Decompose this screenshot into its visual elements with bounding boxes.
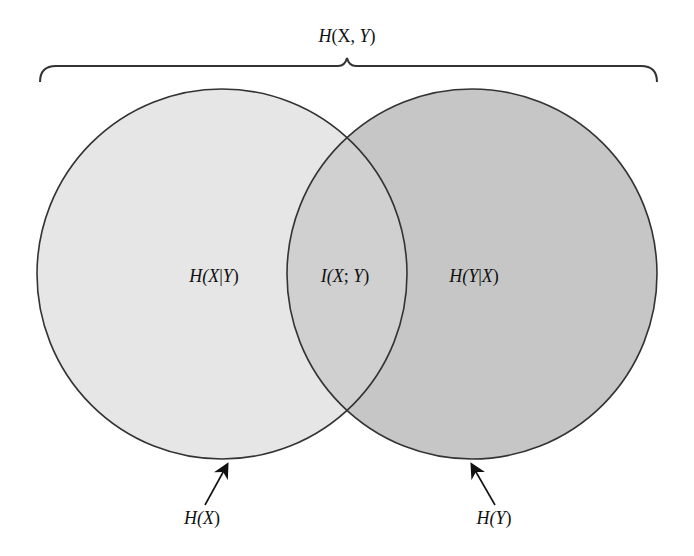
arrow-hx: [205, 465, 227, 505]
label-h-y-given-x: H(Y|X): [448, 266, 499, 287]
label-h-x-given-y: H(X|Y): [188, 266, 239, 287]
venn-diagram: H(X, Y) H(X|Y) I(X; Y) H(Y|X) H(X) H(Y): [0, 0, 694, 556]
arrow-hy: [472, 465, 495, 505]
label-h-x: H(X): [183, 508, 220, 529]
joint-entropy-brace: [40, 58, 657, 82]
label-h-y: H(Y): [475, 508, 511, 529]
label-mutual-information: I(X; Y): [320, 266, 370, 287]
label-joint-entropy: H(X, Y): [317, 26, 375, 47]
